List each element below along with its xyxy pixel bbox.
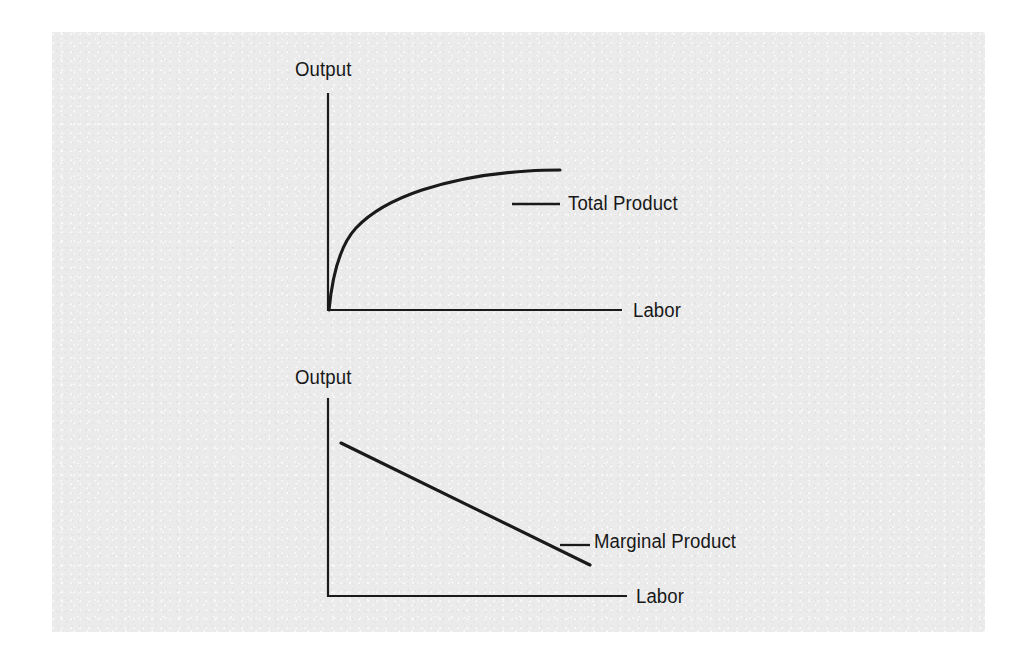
axis-label-output-total-product: Output xyxy=(295,58,351,80)
figure-root: Output Labor Total Product Output Labor … xyxy=(0,0,1036,663)
curve-label-marginal-product: Marginal Product xyxy=(594,530,736,552)
axis-label-labor-total-product: Labor xyxy=(633,299,681,321)
axis-label-output-marginal-product: Output xyxy=(295,366,351,388)
figure-background-plate xyxy=(52,32,985,632)
axis-label-labor-marginal-product: Labor xyxy=(636,585,684,607)
curve-label-total-product: Total Product xyxy=(568,192,678,214)
